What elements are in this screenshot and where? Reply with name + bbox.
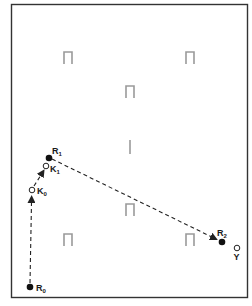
label-y: Y <box>234 252 240 262</box>
point-k1-icon <box>43 163 49 169</box>
point-r0-icon <box>27 284 34 291</box>
point-r2-icon <box>219 239 226 246</box>
point-y-icon <box>234 245 240 251</box>
navigation-diagram: R0 K0 K1 R1 R2 Y <box>0 0 252 306</box>
point-k0-icon <box>29 187 35 193</box>
